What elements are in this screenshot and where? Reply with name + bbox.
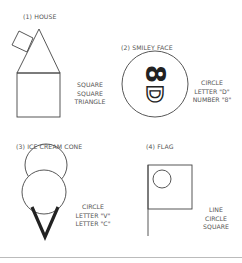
flag-circle bbox=[153, 170, 171, 188]
icecream-shape-2: LETTER "V" bbox=[68, 212, 118, 221]
house-shape-3: TRIANGLE bbox=[66, 98, 114, 107]
house-roof-triangle bbox=[17, 29, 60, 73]
smiley-mouth-d: D bbox=[142, 85, 167, 103]
house-shape-list: SQUARE SQUARE TRIANGLE bbox=[66, 81, 114, 107]
house-shape-1: SQUARE bbox=[66, 81, 114, 90]
house-title: (1) HOUSE bbox=[23, 13, 57, 20]
smiley-figure: 8 D bbox=[122, 51, 188, 117]
icecream-bottom-scoop bbox=[22, 170, 66, 214]
icecream-shape-1: CIRCLE bbox=[68, 203, 118, 212]
flag-square bbox=[148, 165, 192, 209]
house-body-square bbox=[17, 73, 60, 117]
icecream-figure bbox=[22, 144, 67, 237]
house-chimney-square bbox=[12, 31, 33, 52]
icecream-shape-3: LETTER "C" bbox=[68, 220, 118, 229]
smiley-eyes-eight: 8 bbox=[140, 65, 170, 83]
flag-shape-2: CIRCLE bbox=[196, 215, 236, 224]
flag-shape-list: LINE CIRCLE SQUARE bbox=[196, 206, 236, 232]
smiley-shape-list: CIRCLE LETTER "D" NUMBER "8" bbox=[187, 79, 237, 105]
flag-shape-1: LINE bbox=[196, 206, 236, 215]
flag-figure bbox=[148, 165, 192, 236]
flag-shape-3: SQUARE bbox=[196, 223, 236, 232]
icecream-shape-list: CIRCLE LETTER "V" LETTER "C" bbox=[68, 203, 118, 229]
flag-title: (4) FLAG bbox=[146, 143, 174, 150]
smiley-shape-3: NUMBER "8" bbox=[187, 96, 237, 105]
icecream-title: (3) ICE CREAM CONE bbox=[16, 143, 82, 150]
house-shape-2: SQUARE bbox=[66, 90, 114, 99]
smiley-shape-1: CIRCLE bbox=[187, 79, 237, 88]
house-figure bbox=[12, 29, 60, 117]
smiley-title: (2) SMILEY FACE bbox=[121, 44, 173, 51]
smiley-shape-2: LETTER "D" bbox=[187, 88, 237, 97]
bottom-divider bbox=[0, 257, 242, 258]
